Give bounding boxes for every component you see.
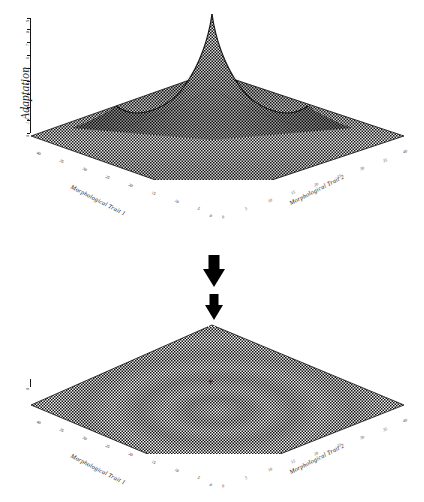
xl-tick-5: 5 — [197, 206, 201, 211]
xl2-tick-0: 0 — [209, 482, 213, 487]
xl-tick-20: 20 — [128, 182, 134, 188]
x-axis-title-left-top: Morphological Trait 1 — [70, 183, 127, 217]
panel-bottom-flat-landscape: 0 — [0, 251, 424, 502]
xl-tick-15: 15 — [151, 190, 157, 196]
x-axis-title-left-bottom: Morphological Trait 1 — [70, 452, 127, 486]
xr2-tick-10: 10 — [267, 466, 273, 472]
figure-root: Adaptation 0 1 2 3 4 5 6 7 8 9 — [0, 0, 424, 502]
surface-peak-top — [0, 8, 424, 148]
panel-top-peaked-landscape: Adaptation 0 1 2 3 4 5 6 7 8 9 — [0, 0, 424, 251]
xl2-tick-20: 20 — [128, 451, 134, 457]
xr2-tick-0: 0 — [221, 483, 225, 488]
xr-tick-10: 10 — [267, 197, 273, 203]
xl-tick-10: 10 — [174, 198, 180, 204]
xr2-tick-5: 5 — [244, 475, 248, 480]
xr-tick-15: 15 — [290, 189, 296, 195]
xl2-tick-10: 10 — [174, 467, 180, 473]
xr-tick-5: 5 — [244, 206, 248, 211]
xl2-tick-15: 15 — [151, 459, 157, 465]
peak-mesh-top — [0, 8, 424, 148]
xl-tick-0: 0 — [209, 213, 213, 218]
xl2-tick-5: 5 — [197, 475, 201, 480]
xr2-tick-15: 15 — [290, 458, 296, 464]
xr-tick-0: 0 — [221, 214, 225, 219]
rear-edge-highlight — [178, 326, 246, 327]
optimum-plus-marker: + — [208, 378, 213, 387]
